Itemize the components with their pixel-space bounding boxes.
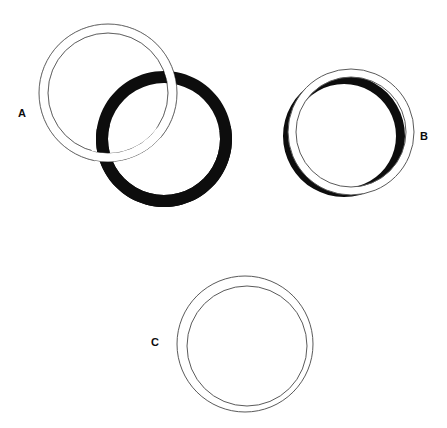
figure-c-group — [177, 276, 313, 412]
ring-figures-illustration — [0, 0, 447, 428]
figure-a-group — [39, 24, 232, 207]
figure-canvas: A B C — [0, 0, 447, 428]
figure-c-white-ring — [177, 276, 313, 412]
figure-label-b: B — [420, 131, 428, 142]
figure-b-white-ring — [288, 69, 414, 195]
figure-label-c: C — [151, 337, 159, 348]
figure-b-group — [283, 69, 414, 197]
figure-label-a: A — [18, 108, 26, 119]
